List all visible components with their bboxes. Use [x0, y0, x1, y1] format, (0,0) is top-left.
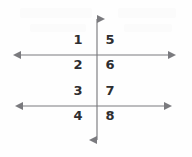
angle-label-6: 6 [103, 58, 117, 71]
angle-label-4: 4 [71, 109, 85, 122]
angle-label-5: 5 [103, 33, 117, 46]
angles-diagram: 1 5 2 6 3 7 4 8 [0, 0, 192, 157]
angle-label-2: 2 [71, 58, 85, 71]
diagram-canvas [0, 0, 192, 157]
angle-label-3: 3 [71, 84, 85, 97]
angle-label-1: 1 [71, 33, 85, 46]
angle-label-8: 8 [103, 109, 117, 122]
angle-label-7: 7 [103, 84, 117, 97]
